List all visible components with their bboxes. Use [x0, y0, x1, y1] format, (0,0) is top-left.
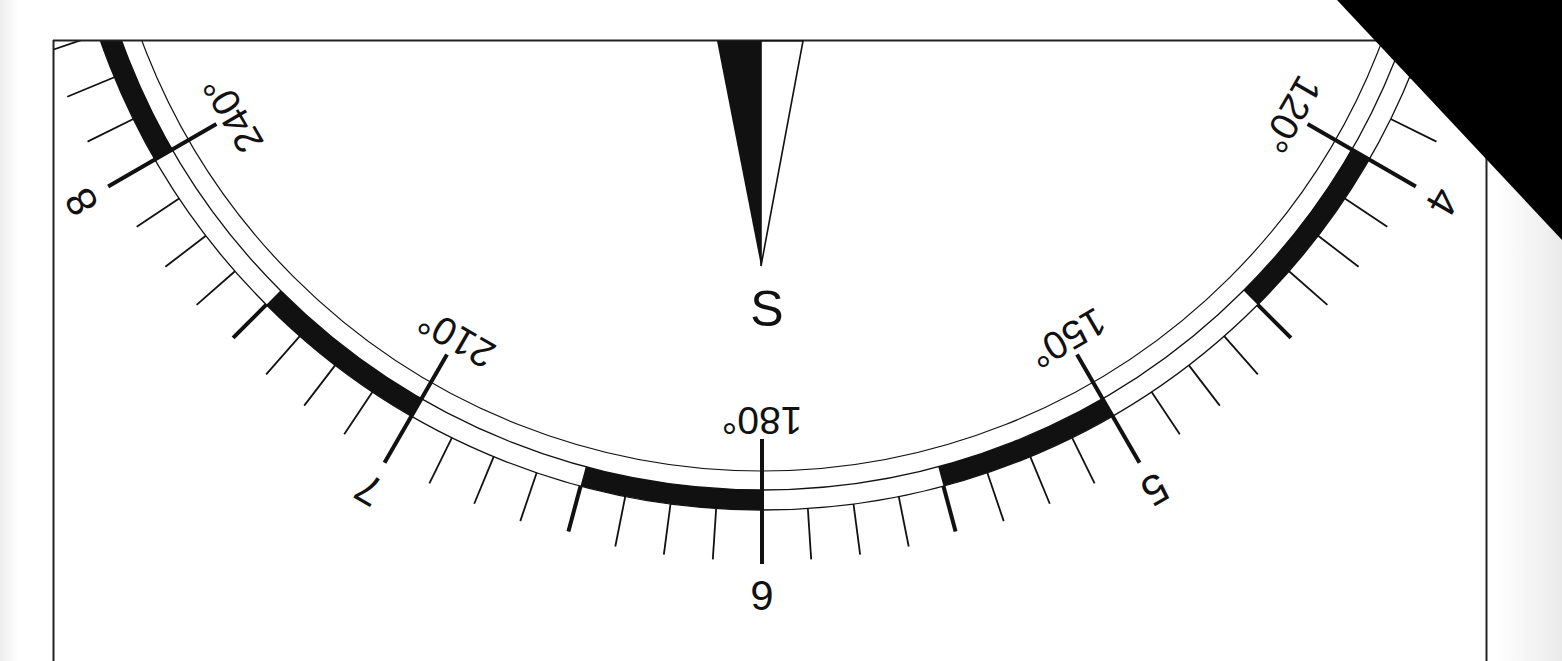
- needle-filled-half: [717, 41, 761, 266]
- minor-tick: [137, 198, 179, 226]
- minor-tick: [1151, 392, 1179, 434]
- minor-tick: [615, 497, 625, 547]
- degree-label: 120°: [1252, 69, 1330, 160]
- band-black-segment: [1244, 150, 1370, 305]
- minor-tick: [713, 508, 716, 559]
- minor-tick: [1224, 336, 1258, 374]
- needle-outline-half: [761, 41, 803, 266]
- half-hour-tick: [39, 0, 84, 3]
- half-hour-tick: [1258, 305, 1291, 338]
- minor-tick: [474, 457, 494, 504]
- minor-tick: [1189, 365, 1220, 405]
- compass-needle-icon: [717, 41, 803, 266]
- major-tick: [1308, 124, 1416, 187]
- band-black-segment: [266, 291, 421, 417]
- minor-tick: [50, 34, 98, 50]
- minor-tick: [1318, 236, 1358, 267]
- hour-label: 5: [1133, 464, 1177, 516]
- needle-direction-label: S: [750, 281, 783, 337]
- band-black-segment: [938, 399, 1112, 486]
- minor-tick: [165, 236, 205, 267]
- major-tick: [385, 355, 448, 463]
- minor-tick: [1391, 119, 1437, 142]
- half-hour-tick: [568, 486, 580, 531]
- hour-label: 6: [750, 572, 773, 619]
- minor-tick: [344, 392, 372, 434]
- minor-tick: [429, 438, 452, 484]
- minor-tick: [520, 473, 536, 521]
- minor-tick: [304, 365, 335, 405]
- hour-label: 8: [55, 180, 107, 224]
- minor-tick: [664, 504, 671, 555]
- degree-label: 180°: [722, 399, 803, 442]
- minor-tick: [67, 77, 114, 97]
- degree-label: 240°: [194, 69, 272, 160]
- minor-tick: [1289, 271, 1327, 305]
- minor-tick: [1072, 438, 1095, 484]
- minor-tick: [853, 504, 860, 555]
- minor-tick: [1030, 457, 1050, 504]
- half-hour-tick: [943, 486, 955, 531]
- minor-tick: [808, 508, 811, 559]
- minor-tick: [197, 271, 235, 305]
- sun-compass-dial: 120°150°180°210°240° 45678 S: [0, 0, 1562, 661]
- minor-tick: [899, 497, 909, 547]
- minor-tick: [88, 119, 134, 142]
- hour-label: 7: [347, 464, 391, 516]
- degree-label: 150°: [1022, 299, 1113, 377]
- hour-label: 4: [1417, 180, 1469, 224]
- degree-label: 210°: [411, 299, 502, 377]
- minor-tick: [987, 473, 1003, 521]
- minor-tick: [266, 336, 300, 374]
- half-hour-tick: [233, 305, 266, 338]
- minor-tick: [1345, 198, 1387, 226]
